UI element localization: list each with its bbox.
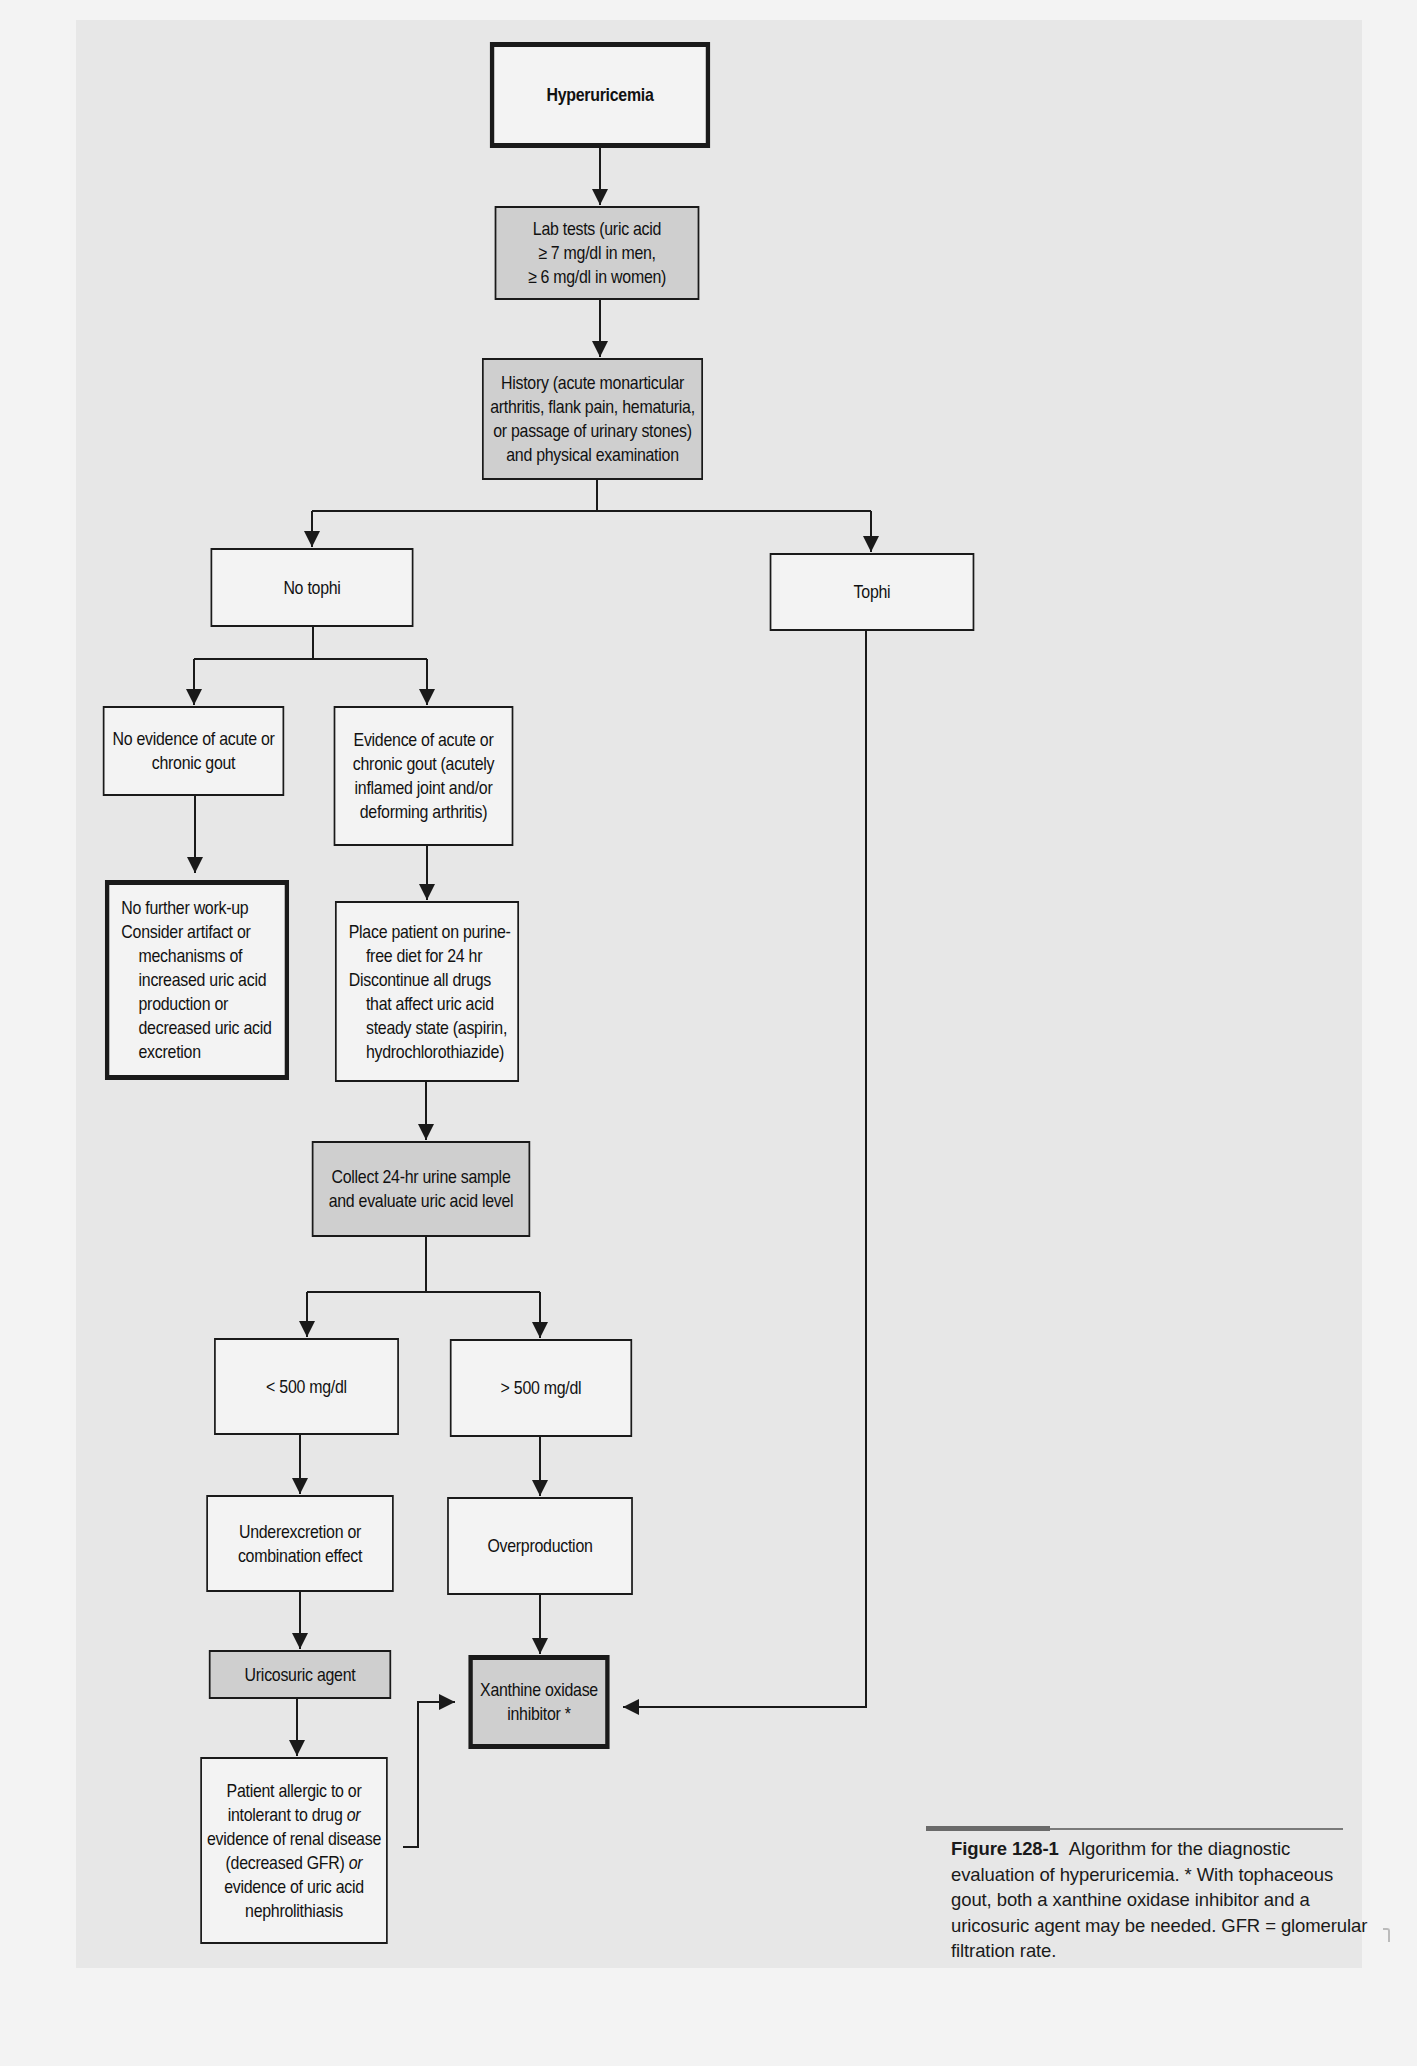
greater-than-500-label: > 500 mg/dl	[501, 1376, 582, 1400]
place-patient-line4: that affect uric acid steady state (aspi…	[349, 992, 511, 1064]
figure-caption: Figure 128-1Algorithm for the diagnostic…	[951, 1836, 1371, 1964]
lab-tests-box: Lab tests (uric acid ≥ 7 mg/dl in men, ≥…	[495, 206, 700, 300]
hyperuricemia-label: Hyperuricemia	[546, 83, 653, 107]
hyperuricemia-box: Hyperuricemia	[490, 42, 710, 148]
tophi-label: Tophi	[854, 580, 891, 604]
history-label: History (acute monarticular arthritis, f…	[490, 371, 695, 467]
collect-urine-label: Collect 24-hr urine sample and evaluate …	[329, 1165, 514, 1213]
patient-allergic-part-a: Patient allergic to or intolerant to dru…	[227, 1780, 362, 1825]
no-tophi-label: No tophi	[283, 576, 340, 600]
caption-rule	[1050, 1828, 1343, 1830]
place-patient-line2: free diet for 24 hr	[349, 944, 511, 968]
less-than-500-label: < 500 mg/dl	[266, 1375, 347, 1399]
or-emphasis-1: or	[347, 1804, 361, 1825]
no-further-line1: No further work-up	[121, 896, 271, 920]
underexcretion-label: Underexcretion or combination effect	[238, 1520, 362, 1568]
place-patient-line3: Discontinue all drugs	[349, 968, 511, 992]
place-patient-line1: Place patient on purine-	[349, 920, 511, 944]
uricosuric-agent-label: Uricosuric agent	[245, 1663, 356, 1687]
patient-allergic-label: Patient allergic to or intolerant to dru…	[207, 1779, 381, 1923]
overproduction-box: Overproduction	[447, 1497, 633, 1595]
no-further-line2: Consider artifact or	[121, 920, 271, 944]
no-evidence-gout-box: No evidence of acute or chronic gout	[103, 706, 284, 796]
no-evidence-gout-label: No evidence of acute or chronic gout	[112, 727, 274, 775]
lab-tests-label: Lab tests (uric acid ≥ 7 mg/dl in men, ≥…	[528, 217, 666, 289]
patient-allergic-box: Patient allergic to or intolerant to dru…	[200, 1757, 387, 1944]
overproduction-label: Overproduction	[487, 1534, 592, 1558]
patient-allergic-part-c: evidence of uric acid nephrolithiasis	[224, 1876, 364, 1921]
caption-rule-accent	[926, 1826, 1050, 1831]
less-than-500-box: < 500 mg/dl	[214, 1338, 399, 1435]
collect-urine-box: Collect 24-hr urine sample and evaluate …	[312, 1141, 530, 1237]
greater-than-500-box: > 500 mg/dl	[450, 1339, 632, 1437]
uricosuric-agent-box: Uricosuric agent	[209, 1650, 391, 1699]
scan-mark	[1383, 1928, 1390, 1942]
no-tophi-box: No tophi	[211, 548, 414, 627]
evidence-gout-label: Evidence of acute or chronic gout (acute…	[353, 728, 494, 824]
underexcretion-box: Underexcretion or combination effect	[206, 1495, 393, 1592]
history-box: History (acute monarticular arthritis, f…	[482, 358, 703, 480]
no-further-line3: mechanisms of increased uric acid produc…	[121, 944, 271, 1064]
or-emphasis-2: or	[349, 1852, 363, 1873]
place-patient-box: Place patient on purine- free diet for 2…	[335, 901, 519, 1082]
xanthine-oxidase-label: Xanthine oxidase inhibitor *	[480, 1678, 598, 1726]
figure-label: Figure 128-1	[951, 1838, 1059, 1859]
evidence-gout-box: Evidence of acute or chronic gout (acute…	[334, 706, 514, 846]
xanthine-oxidase-box: Xanthine oxidase inhibitor *	[468, 1655, 609, 1749]
tophi-box: Tophi	[770, 553, 975, 631]
no-further-workup-box: No further work-up Consider artifact or …	[105, 880, 289, 1080]
